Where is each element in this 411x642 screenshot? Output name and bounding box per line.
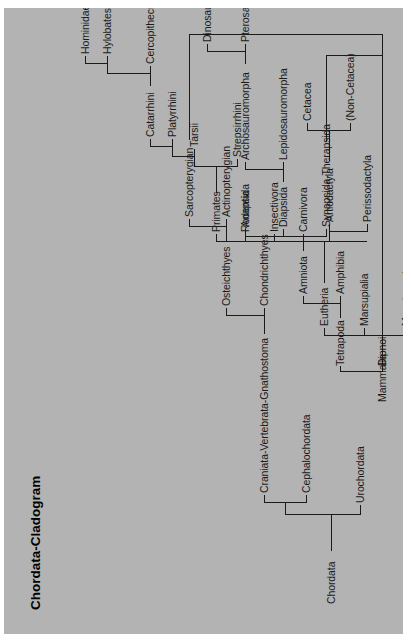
edge-carnivora bbox=[303, 234, 304, 242]
node-haplorhini bbox=[172, 156, 195, 157]
edge-cephalochordata bbox=[306, 495, 307, 503]
edge-hylobates bbox=[107, 56, 108, 64]
edge-amphibia bbox=[340, 296, 341, 304]
edge-diapsida-stem bbox=[283, 170, 284, 182]
edge-catarrhini-stem bbox=[150, 74, 151, 86]
edge-pterosauria bbox=[245, 44, 246, 52]
node-catarrhini bbox=[107, 73, 151, 74]
node-hominoidea bbox=[85, 63, 108, 64]
edge-archosauromorpha-stem bbox=[245, 52, 246, 64]
taxon-label-amphibia: Amphibia bbox=[335, 251, 346, 294]
taxon-label-tarsii: Tarsii bbox=[189, 123, 200, 147]
taxon-label-strepsirrhini: Strepsirrhini bbox=[232, 102, 243, 157]
taxon-label-carnivora: Carnivora bbox=[298, 187, 309, 232]
edge-platyrrhini bbox=[172, 139, 173, 147]
edge-urochordata bbox=[360, 505, 361, 515]
edge-non-cetacea bbox=[350, 123, 351, 131]
edge-primates-stem bbox=[216, 167, 217, 193]
edge-diapsida bbox=[283, 229, 284, 237]
edge-osteichthyes bbox=[226, 308, 227, 316]
taxon-label-insectivora: Insectivora bbox=[269, 182, 280, 232]
taxon-label-tetrapoda: Tetrapoda bbox=[335, 320, 346, 366]
edge-amniota bbox=[303, 296, 304, 304]
taxon-label-catarrhini: Catarrhini bbox=[145, 92, 156, 137]
edge-rodentia bbox=[245, 234, 246, 242]
taxon-label-hominidae: Hominidae bbox=[80, 8, 91, 54]
edge-insectivora bbox=[274, 234, 275, 242]
edge-cetacea bbox=[307, 123, 308, 131]
taxon-label-eutheria: Eutheria bbox=[319, 288, 330, 326]
edge-primates bbox=[216, 234, 217, 242]
taxon-label-rodentia: Rodentia bbox=[240, 191, 251, 232]
edge-mammalia-stem bbox=[382, 336, 383, 348]
taxon-label-craniata: Craniata-Vertebrata-Gnathostoma bbox=[259, 338, 270, 493]
edge-chordata-stem bbox=[331, 515, 332, 551]
taxon-label-primates: Primates bbox=[211, 191, 222, 232]
edge-haplorhini-stem bbox=[194, 157, 195, 167]
node-ungulates bbox=[329, 231, 367, 232]
taxon-label-cephalochordata: Cephalochordata bbox=[301, 415, 312, 493]
node-archosauromorpha bbox=[207, 51, 246, 52]
taxon-label-mammalia: Mammalia bbox=[377, 354, 388, 402]
edge-hominoidea-stem bbox=[107, 64, 108, 74]
page-root: Chordata-Cladogram Chordata Urochordata … bbox=[0, 0, 411, 642]
edge-actinopterygian bbox=[226, 219, 227, 227]
edge-sarcopterygian bbox=[189, 219, 190, 227]
taxon-label-lepidosauromorpha: Lepidosauromorpha bbox=[278, 68, 289, 160]
edge-dinosauria bbox=[207, 44, 208, 52]
taxon-label-chondrichthyes: Chondrichthyes bbox=[259, 234, 270, 306]
taxon-label-cetacea: Cetacea bbox=[302, 83, 313, 121]
edge-marsupialia bbox=[364, 328, 365, 336]
edge-osteichthyes-stem bbox=[226, 227, 227, 241]
cladogram-canvas: Chordata-Cladogram Chordata Urochordata … bbox=[4, 8, 403, 634]
edge-archosauromorpha bbox=[245, 162, 246, 170]
taxon-label-amniota: Amniota bbox=[298, 256, 309, 294]
edge-sarcopterygian-drop bbox=[189, 34, 382, 35]
edge-tarsii bbox=[194, 149, 195, 157]
edge-tetrapoda-stem bbox=[340, 304, 341, 318]
page-title: Chordata-Cladogram bbox=[28, 476, 43, 610]
node-diapsida bbox=[245, 169, 284, 170]
taxon-label-dinosauria: Dinosauria bbox=[202, 8, 213, 42]
edge-cercopithecus bbox=[150, 66, 151, 74]
taxon-label-marsupialia: Marsupialia bbox=[359, 273, 370, 326]
taxon-label-urochordata: Urochordata bbox=[355, 446, 366, 503]
taxon-label-non-cetacea: (Non-Cetacea) bbox=[345, 53, 356, 121]
node-chordata bbox=[285, 514, 361, 515]
edge-ungulate-group-stem bbox=[329, 232, 330, 242]
node-artiodactyla bbox=[307, 130, 350, 131]
edge-artiodactyla-stem bbox=[329, 131, 330, 161]
node-craniata-cephalo bbox=[264, 502, 306, 503]
node-eutheria bbox=[216, 241, 367, 242]
edge-catarrhini bbox=[150, 139, 151, 147]
edge-lepidosauromorpha bbox=[283, 162, 284, 170]
taxon-label-cercopithecus: Cercopithecus bbox=[145, 8, 156, 64]
edge-simii-stem bbox=[172, 147, 173, 157]
edge-perissodactyla bbox=[367, 224, 368, 232]
taxon-label-pterosauria: Pterosauria bbox=[240, 8, 251, 42]
node-primates bbox=[194, 166, 237, 167]
edge-eutheria-stem bbox=[324, 242, 325, 283]
node-simii bbox=[150, 146, 173, 147]
taxon-label-osteichthyes: Osteichthyes bbox=[221, 247, 232, 307]
edge-mammalia-return bbox=[382, 55, 383, 372]
edge-artiodactyla bbox=[329, 224, 330, 232]
edge-eutheria bbox=[324, 328, 325, 336]
taxon-label-monotremata: Monotremata bbox=[401, 265, 403, 326]
edge-strepsirrhini bbox=[237, 159, 238, 167]
edge-craniata bbox=[264, 495, 265, 503]
taxon-label-chordata: Chordata bbox=[326, 562, 337, 604]
edge-chondrichthyes bbox=[264, 308, 265, 316]
node-gnathostoma bbox=[226, 315, 265, 316]
taxon-label-artiodactyla: Artiodactyla bbox=[324, 168, 335, 222]
taxon-label-perissodactyla: Perissodactyla bbox=[362, 155, 373, 222]
cladogram-plate: Chordata-Cladogram Chordata Urochordata … bbox=[4, 8, 403, 634]
edge-craniata-group-stem bbox=[285, 503, 286, 515]
taxon-label-platyrrhini: Platyrrhini bbox=[167, 91, 178, 137]
taxon-label-hylobates: Hylobates bbox=[102, 8, 113, 54]
edge-synapsida bbox=[326, 229, 327, 237]
node-amniota bbox=[245, 236, 327, 237]
edge-craniata-stem bbox=[264, 316, 265, 334]
edge-tetrapoda bbox=[340, 366, 341, 372]
edge-hominidae bbox=[85, 56, 86, 64]
